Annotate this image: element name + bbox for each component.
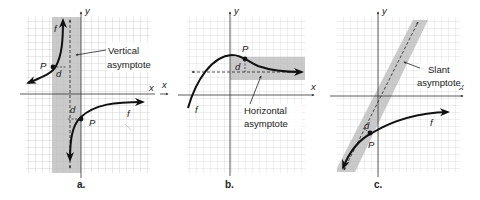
x-axis-label-left-b: x	[161, 79, 168, 90]
y-axis-label-a: y	[84, 5, 91, 16]
point-label-lower-a: P	[89, 117, 96, 128]
point-label-b: P	[242, 43, 249, 54]
distance-label-c: d	[364, 120, 370, 131]
x-axis-label-a: x	[148, 82, 155, 93]
point-label-c: P	[368, 139, 375, 150]
asymptote-label-line1-a: Vertical	[108, 45, 139, 56]
caption-b: b.	[225, 179, 234, 190]
distance-label-lower-a: d	[70, 104, 76, 115]
asymptote-diagram: y x f P d d P f Vertical asymptote a.	[0, 0, 480, 200]
point-label-upper-a: P	[40, 60, 47, 71]
panel-c: y x d P f Slant asymptote c.	[330, 5, 465, 190]
asymptote-label-line2-a: asymptote	[107, 59, 151, 70]
asymptote-label-line2-c: asymptote	[417, 77, 461, 88]
caption-c: c.	[374, 179, 383, 190]
x-axis-label-b: x	[310, 81, 317, 92]
asymptote-label-line2-b: asymptote	[244, 118, 288, 129]
caption-a: a.	[77, 179, 86, 190]
distance-label-b: d	[235, 61, 241, 72]
panel-a: y x f P d d P f Vertical asymptote a.	[20, 5, 155, 190]
panel-b: y x x P d f Horizontal asymptote b.	[160, 5, 317, 190]
y-axis-label-c: y	[381, 5, 388, 16]
y-axis-label-b: y	[233, 5, 240, 16]
asymptote-label-line1-b: Horizontal	[244, 105, 287, 116]
asymptote-label-line1-c: Slant	[428, 64, 450, 75]
distance-label-upper-a: d	[56, 68, 62, 79]
